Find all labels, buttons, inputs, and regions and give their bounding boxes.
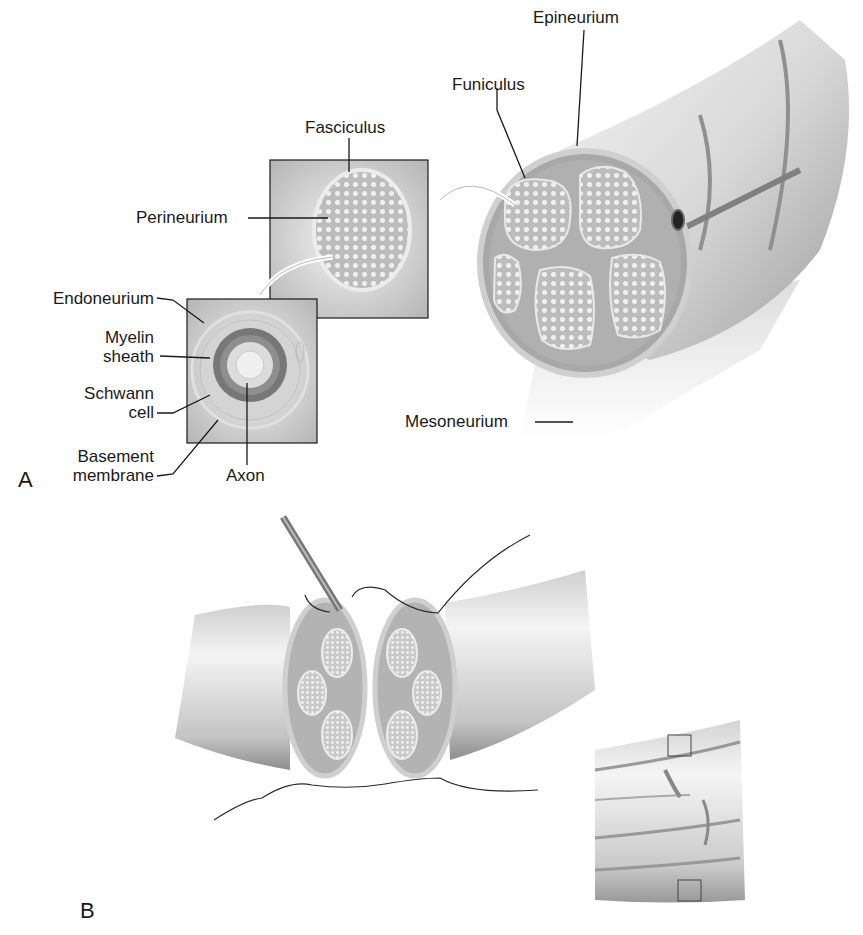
label-endoneurium: Endoneurium	[30, 289, 154, 308]
suture-repair	[175, 517, 595, 820]
label-myelin-1: Myelin	[30, 328, 154, 347]
label-myelin-2: sheath	[30, 347, 154, 366]
label-basement-1: Basement	[30, 447, 154, 466]
panel-label-a: A	[18, 467, 33, 493]
label-schwann-2: cell	[30, 403, 154, 422]
axon-inset	[187, 299, 317, 443]
label-mesoneurium: Mesoneurium	[405, 412, 508, 431]
label-axon: Axon	[226, 466, 265, 485]
label-fasciculus: Fasciculus	[305, 118, 385, 137]
label-funiculus: Funiculus	[452, 75, 525, 94]
nerve-trunk	[480, 20, 849, 440]
panel-label-b: B	[80, 898, 95, 924]
label-epineurium: Epineurium	[533, 8, 619, 27]
label-perineurium: Perineurium	[136, 208, 228, 227]
label-basement-2: membrane	[30, 466, 154, 485]
label-schwann-1: Schwann	[30, 384, 154, 403]
fasciculus-inset	[270, 160, 428, 318]
fascicle-repair-inset	[595, 720, 745, 903]
